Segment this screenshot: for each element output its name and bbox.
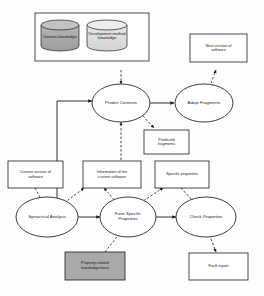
artifact-information-of-current-software[interactable] — [83, 161, 141, 188]
artifact-next-version-of-software[interactable] — [190, 34, 247, 62]
knowledge-sources-group[interactable] — [35, 13, 149, 61]
process-check-properties[interactable] — [176, 197, 236, 237]
artifact-current-version-of-software[interactable] — [8, 161, 63, 188]
domain-knowledge-cylinder[interactable] — [41, 20, 79, 51]
development-method-knowledge-top — [87, 20, 127, 30]
artifact-predicted-fragments[interactable] — [144, 130, 189, 154]
edge-predict-to-predicted-fragments — [143, 116, 154, 128]
artifact-property-related-knowledge-base[interactable] — [65, 252, 125, 280]
process-syntactical-analysis[interactable] — [16, 197, 78, 237]
artifact-fault-report[interactable] — [189, 253, 248, 280]
process-form-specific-properties[interactable] — [100, 197, 156, 237]
process-predict-contents[interactable] — [92, 84, 150, 122]
domain-knowledge-top — [41, 20, 79, 30]
diagram-vector-layer — [0, 0, 264, 296]
artifact-specific-properties[interactable] — [155, 161, 209, 188]
edge-syntactical-to-information — [64, 188, 84, 203]
process-adapt-fragments[interactable] — [175, 84, 233, 122]
diagram-canvas: Domain knowledge Development method know… — [0, 0, 264, 296]
development-method-knowledge-cylinder[interactable] — [87, 20, 127, 51]
